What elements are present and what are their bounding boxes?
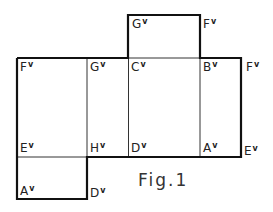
vertex-label-row2-h: Hv <box>90 142 105 154</box>
view-mark: v <box>212 141 217 150</box>
vertex-letter: C <box>131 60 139 74</box>
vertex-letter: A <box>203 141 211 155</box>
view-mark: v <box>254 60 259 69</box>
vertex-label-row2-d: Dv <box>131 142 146 154</box>
vertex-letter: F <box>246 60 253 74</box>
vertex-label-row2-a: Av <box>203 142 217 154</box>
view-mark: v <box>142 17 147 26</box>
vertex-letter: E <box>244 144 252 158</box>
view-mark: v <box>211 17 216 26</box>
vertex-label-row1-b: Bv <box>203 61 217 73</box>
vertex-label-top-f: Fv <box>203 18 216 30</box>
vertex-label-row1-f: Fv <box>20 61 33 73</box>
vertex-letter: D <box>131 141 140 155</box>
view-mark: v <box>100 186 105 195</box>
vertex-label-row2-e-right: Ev <box>244 145 258 157</box>
view-mark: v <box>29 141 34 150</box>
view-mark: v <box>140 60 145 69</box>
net-diagram <box>0 0 273 212</box>
vertex-label-row1-f-right: Fv <box>246 61 259 73</box>
vertex-label-row2-e: Ev <box>20 142 34 154</box>
view-mark: v <box>29 184 34 193</box>
vertex-label-row1-g: Gv <box>90 61 106 73</box>
vertex-label-row1-c: Cv <box>131 61 146 73</box>
view-mark: v <box>100 141 105 150</box>
view-mark: v <box>212 60 217 69</box>
view-mark: v <box>28 60 33 69</box>
vertex-letter: H <box>90 141 99 155</box>
view-mark: v <box>253 144 258 153</box>
vertex-letter: F <box>203 17 210 31</box>
view-mark: v <box>141 141 146 150</box>
vertex-letter: G <box>90 60 99 74</box>
vertex-label-bottom-a: Av <box>20 185 34 197</box>
vertex-letter: A <box>20 184 28 198</box>
vertex-letter: E <box>20 141 28 155</box>
vertex-letter: B <box>203 60 211 74</box>
vertex-label-bottom-d: Dv <box>90 187 105 199</box>
vertex-label-top-g: Gv <box>132 18 148 30</box>
view-mark: v <box>100 60 105 69</box>
vertex-letter: D <box>90 186 99 200</box>
vertex-letter: F <box>20 60 27 74</box>
figure-caption: Fig.1 <box>138 170 188 190</box>
vertex-letter: G <box>132 17 141 31</box>
